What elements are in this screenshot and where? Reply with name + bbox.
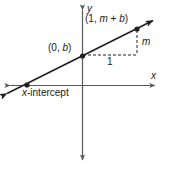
point-label-one-m-plus-b: (1, m + b): [85, 14, 128, 24]
y-axis-label: y: [87, 4, 92, 14]
slope-intercept-diagram: (1, m + b) m (0, b) 1 y x x-intercept: [0, 0, 169, 182]
function-line: [7, 21, 153, 94]
x-axis-label: x: [151, 71, 156, 81]
point-label-zero-b: (0, b): [48, 43, 71, 53]
x-intercept-label: x-intercept: [22, 88, 69, 98]
rise-label-m: m: [142, 37, 150, 47]
y-intercept-point: [80, 53, 85, 58]
run-label-one: 1: [107, 57, 113, 67]
rise-point: [134, 26, 139, 31]
